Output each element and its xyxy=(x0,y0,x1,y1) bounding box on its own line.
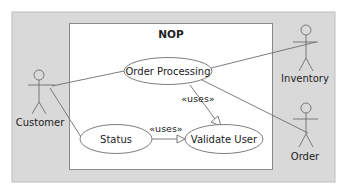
use-case-label: Status xyxy=(100,134,132,145)
system-title: NOP xyxy=(158,28,184,40)
actor-label: Inventory xyxy=(281,73,329,84)
uses-label: «uses» xyxy=(149,123,183,134)
use-case-label: Order Processing xyxy=(126,66,211,77)
actor-label: Customer xyxy=(16,117,65,128)
use-case-validate-user[interactable]: Validate User xyxy=(185,125,263,154)
use-case-order-processing[interactable]: Order Processing xyxy=(124,58,212,85)
uses-label: «uses» xyxy=(181,93,215,104)
use-case-status[interactable]: Status xyxy=(80,125,152,154)
use-case-diagram: NOP «uses» «uses» Order Processing Statu… xyxy=(0,0,346,189)
actor-label: Order xyxy=(291,151,320,162)
use-case-label: Validate User xyxy=(191,134,258,145)
